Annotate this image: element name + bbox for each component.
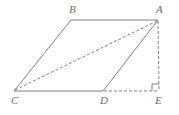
vertex-label-b: B: [69, 4, 76, 15]
vertex-label-d: D: [100, 95, 108, 106]
segment-cb: [14, 20, 71, 91]
vertex-label-e: E: [155, 95, 162, 106]
segment-ae-altitude: [158, 21, 159, 91]
segment-ca-diagonal: [15, 21, 157, 90]
geometry-canvas: [0, 0, 179, 115]
vertex-label-c: C: [11, 95, 18, 106]
geometry-figure: A B C D E: [0, 0, 179, 115]
vertex-label-a: A: [156, 4, 163, 15]
right-angle-marker-icon: [152, 84, 159, 91]
segment-da: [103, 20, 158, 91]
